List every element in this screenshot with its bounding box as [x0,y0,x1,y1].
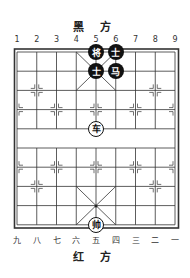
file-label: 二 [148,234,162,245]
file-label: 一 [168,234,182,245]
file-label: 七 [50,234,64,245]
black-advisor-1-piece[interactable]: 士 [108,44,124,60]
file-label: 四 [109,234,123,245]
file-label: 六 [69,234,83,245]
file-label: 八 [30,234,44,245]
file-label: 三 [129,234,143,245]
black-horse-piece[interactable]: 马 [108,63,124,79]
file-label: 五 [89,234,103,245]
red-side-title: 红 方 [0,248,190,264]
file-label: 九 [10,234,24,245]
black-general-piece[interactable]: 将 [88,44,104,60]
red-general-piece[interactable]: 帅 [88,217,104,233]
red-chariot-piece[interactable]: 车 [88,121,104,137]
